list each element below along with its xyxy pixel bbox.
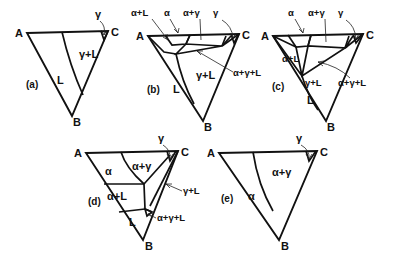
panel-e-region-alpha-plus-gamma: α+γ [272, 166, 292, 178]
panel-a: A C B L γ+L γ (a) [15, 8, 119, 128]
panel-d-callout-gamma-plus-L: γ+L [183, 185, 200, 196]
panel-b: A C B L γ+L α+L α α+γ γ α+γ+L (b) [131, 7, 261, 133]
panel-c-callout-gamma: γ [338, 7, 344, 18]
panel-d-region-liquid: L [129, 216, 136, 228]
panel-d-caption: (d) [88, 196, 101, 207]
panel-c-region-liquid: L [307, 94, 314, 106]
phase-diagram-canvas: A C B L γ+L γ (a) A C B L γ+L α [0, 0, 405, 262]
panel-d: A C B α α+γ α+L L γ γ+L α+γ+L (d) [74, 132, 200, 252]
panel-c-vertex-C: C [366, 29, 374, 41]
panel-d-callout-alpha-gamma-L: α+γ+L [157, 212, 185, 223]
panel-b-caption: (b) [147, 84, 160, 95]
panel-c-region-gamma-plus-liquid: γ+L [305, 77, 322, 88]
panel-b-triangle [148, 34, 239, 121]
panel-a-region-gamma-plus-liquid: γ+L [79, 48, 99, 60]
panel-b-callout-alpha-plus-L: α+L [131, 7, 148, 18]
panel-c: A C B L γ+L α+L α α+γ γ α+γ+L (c) [261, 7, 374, 133]
panel-c-vertex-B: B [327, 121, 335, 133]
panel-d-vertex-C: C [181, 146, 189, 158]
panel-a-callout-gamma: γ [95, 8, 102, 20]
panel-b-callout-gamma: γ [213, 7, 219, 18]
panel-d-region-alpha-plus-liquid: α+L [107, 190, 127, 202]
panel-c-callout-alpha-gamma-L: α+γ+L [338, 77, 366, 88]
panel-c-vertex-A: A [261, 30, 269, 42]
panel-d-callout-gamma: γ [158, 132, 165, 144]
panel-a-vertex-C: C [111, 26, 119, 38]
panel-e: A C B α α+γ γ (e) [207, 132, 328, 252]
panel-e-callout-gamma: γ [296, 132, 303, 144]
panel-e-region-alpha: α [248, 190, 255, 202]
panel-d-vertex-B: B [145, 240, 153, 252]
panel-c-callout-alpha-plus-gamma: α+γ [308, 7, 325, 18]
panel-c-caption: (c) [272, 81, 284, 92]
panel-e-vertex-C: C [320, 146, 328, 158]
panel-a-caption: (a) [26, 79, 38, 90]
panel-d-leader-gamma-plus-L [166, 184, 182, 191]
panel-e-triangle [219, 151, 317, 240]
panel-c-leader-alpha [295, 19, 303, 33]
panel-b-leader-alpha [170, 19, 178, 33]
panel-b-vertex-A: A [136, 30, 144, 42]
panel-b-region-gamma-plus-liquid: γ+L [196, 69, 216, 81]
panel-d-region-alpha-plus-gamma: α+γ [132, 160, 152, 172]
panel-a-vertex-A: A [15, 27, 23, 39]
panel-b-vertex-B: B [204, 121, 212, 133]
panel-a-vertex-B: B [73, 116, 81, 128]
panel-e-vertex-A: A [207, 147, 215, 159]
panel-d-region-alpha: α [105, 165, 112, 177]
panel-e-caption: (e) [221, 193, 233, 204]
panel-b-callout-alpha: α [164, 7, 170, 18]
phase-diagram-figure: A C B L γ+L γ (a) A C B L γ+L α [0, 0, 405, 262]
panel-b-callout-alpha-plus-gamma: α+γ [183, 7, 200, 18]
panel-c-region-alpha-plus-liquid: α+L [282, 53, 299, 64]
panel-a-triangle [27, 31, 108, 116]
panel-b-vertex-C: C [242, 29, 250, 41]
panel-c-callout-alpha: α [288, 7, 294, 18]
panel-e-vertex-B: B [281, 240, 289, 252]
panel-b-callout-alpha-gamma-L: α+γ+L [233, 67, 261, 78]
panel-b-region-liquid: L [173, 83, 180, 95]
panel-a-region-liquid: L [57, 74, 64, 86]
panel-d-vertex-A: A [74, 147, 82, 159]
